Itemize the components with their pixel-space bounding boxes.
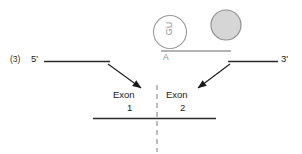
exon2-number-label: 2 [180,103,185,113]
three-prime-end-label: 3' [281,54,288,64]
five-prime-end-label: 5' [31,54,38,64]
diagram-canvas [0,0,302,154]
lariat-gu-label: GU [165,22,174,36]
right-ligation-arrow [198,64,230,88]
exon1-number-label: 1 [127,103,132,113]
branch-point-a-label: A [163,53,169,62]
snrnp-particle [211,10,241,40]
step-number-label: (3) [10,55,20,64]
rna-splicing-diagram: (3) 5' 3' GU A Exon 1 Exon 2 [0,0,302,154]
exon2-label: Exon [166,90,188,100]
exon1-label: Exon [113,90,135,100]
left-ligation-arrow [108,64,141,88]
